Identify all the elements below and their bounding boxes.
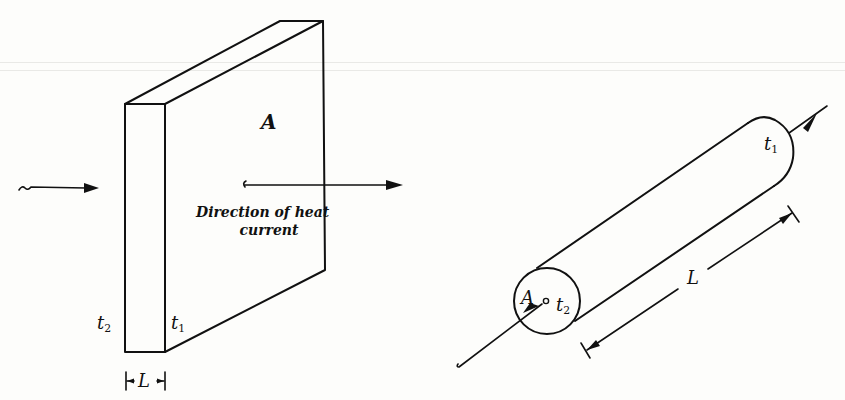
cylinder-heat-out-arrow: [789, 106, 827, 133]
heat-conduction-diagram: [0, 0, 845, 400]
direction-caption: Direction of heat current: [196, 203, 320, 239]
direction-caption-line1: Direction of heat: [196, 203, 320, 221]
temp-subscript: 1: [771, 143, 778, 156]
slab-area-label: A: [261, 112, 277, 132]
temp-subscript: 1: [178, 322, 185, 335]
heat-in-arrow: [19, 183, 99, 193]
temp-subscript: 2: [104, 322, 111, 335]
axis-point: [543, 298, 548, 303]
slab-left-temp-label: t2: [97, 314, 111, 334]
slab-front-face: [125, 104, 165, 352]
slab: [125, 21, 325, 352]
cylinder-area-label: A: [521, 289, 534, 307]
slab-right-temp-label: t1: [171, 314, 185, 334]
direction-caption-line2: current: [196, 221, 320, 239]
cylinder-near-temp-label: t2: [556, 296, 570, 316]
slab-top-face: [125, 21, 323, 104]
cylinder-far-temp-label: t1: [764, 135, 778, 155]
cylinder-bottom-edge: [575, 186, 774, 321]
cylinder-length-label: L: [687, 269, 699, 287]
slab-thickness-label: L: [138, 372, 150, 390]
temp-subscript: 2: [563, 304, 570, 317]
cylinder-top-edge: [537, 123, 748, 268]
